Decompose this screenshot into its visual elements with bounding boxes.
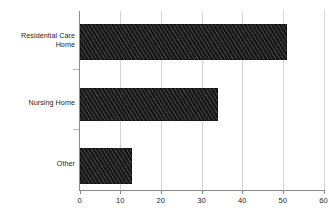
x-axis-tick-50 xyxy=(283,190,284,194)
category-label-other: Other xyxy=(57,159,75,168)
x-tick-label-0: 0 xyxy=(67,196,93,206)
x-tick-label-20: 20 xyxy=(148,196,174,206)
x-axis-tick-0 xyxy=(80,190,81,194)
x-tick-label-10: 10 xyxy=(107,196,133,206)
x-axis-tick-60 xyxy=(324,190,325,194)
x-tick-label-60: 60 xyxy=(311,196,329,206)
category-label-nursing-home: Nursing Home xyxy=(28,98,75,107)
x-axis-tick-30 xyxy=(202,190,203,194)
plot-area xyxy=(80,11,324,190)
bar-other xyxy=(80,148,133,184)
x-tick-label-50: 50 xyxy=(270,196,296,206)
x-tick-label-40: 40 xyxy=(229,196,255,206)
bar-residential-care-home xyxy=(80,24,288,60)
x-axis-tick-10 xyxy=(120,190,121,194)
y-axis-line xyxy=(79,11,80,190)
gridline-60 xyxy=(324,11,325,190)
bar-chart: Residential Care Home Nursing Home Other… xyxy=(0,0,329,223)
x-tick-label-30: 30 xyxy=(189,196,215,206)
y-axis-tick-2 xyxy=(73,129,79,130)
bar-nursing-home xyxy=(80,88,218,121)
y-axis-tick-1 xyxy=(73,69,79,70)
x-axis-tick-20 xyxy=(161,190,162,194)
x-axis-tick-40 xyxy=(242,190,243,194)
category-label-residential-care-home: Residential Care Home xyxy=(21,31,75,49)
